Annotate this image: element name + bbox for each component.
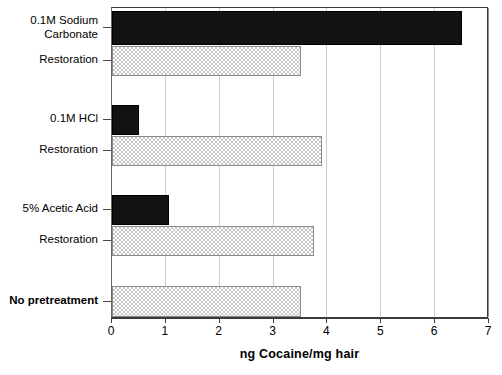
x-axis-tick-label: 2 (207, 324, 231, 338)
x-axis-tick-label: 4 (314, 324, 338, 338)
y-axis-category-label: 5% Acetic Acid (23, 202, 98, 216)
x-axis-tick-label: 5 (368, 324, 392, 338)
bar (112, 226, 314, 256)
y-axis-tick (103, 119, 111, 120)
bar (112, 195, 169, 225)
x-axis-tick (434, 318, 435, 323)
x-axis-line (111, 318, 488, 319)
x-axis-tick (488, 318, 489, 323)
gridline (488, 8, 489, 317)
y-axis-category-label: No pretreatment (9, 294, 98, 308)
y-axis-category-label: Restoration (39, 233, 98, 247)
bar (112, 46, 301, 76)
x-axis-tick (273, 318, 274, 323)
bar-series (112, 8, 487, 317)
y-axis-tick (103, 27, 111, 28)
x-axis-tick (326, 318, 327, 323)
bar-chart: 0.1M Sodium CarbonateRestoration0.1M HCl… (0, 0, 502, 375)
bar (112, 286, 301, 317)
x-axis-tick-label: 1 (153, 324, 177, 338)
x-axis-tick (111, 318, 112, 323)
y-axis-category-label: Restoration (39, 53, 98, 67)
x-axis-tick-label: 6 (422, 324, 446, 338)
x-axis-tick (380, 318, 381, 323)
x-axis-tick (219, 318, 220, 323)
y-axis-tick (103, 209, 111, 210)
x-axis-tick-label: 3 (261, 324, 285, 338)
bar (112, 105, 139, 135)
plot-area (111, 7, 488, 318)
x-axis-title: ng Cocaine/mg hair (111, 347, 488, 361)
y-axis-tick (103, 301, 111, 302)
y-axis-tick (103, 150, 111, 151)
y-axis-tick (103, 240, 111, 241)
y-axis-category-label: 0.1M Sodium Carbonate (30, 14, 98, 41)
x-axis-tick-label: 0 (99, 324, 123, 338)
bar (112, 11, 462, 45)
y-axis-category-label: 0.1M HCl (50, 112, 98, 126)
bar (112, 136, 322, 166)
x-axis-tick-label: 7 (476, 324, 500, 338)
x-axis-tick (165, 318, 166, 323)
y-axis-category-label: Restoration (39, 143, 98, 157)
y-axis-tick (103, 60, 111, 61)
y-axis-labels: 0.1M Sodium CarbonateRestoration0.1M HCl… (0, 0, 111, 325)
